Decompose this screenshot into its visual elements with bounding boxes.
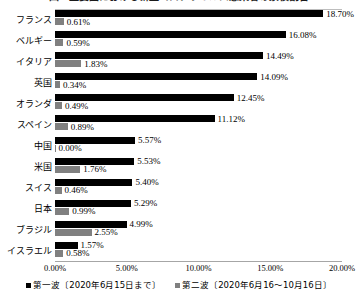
bar-value-label: 18.70% (326, 9, 354, 19)
category-row: イスラエル1.57%0.58% (55, 241, 342, 262)
bar-value-label: 0.46% (65, 185, 88, 195)
bar-value-label: 0.99% (72, 206, 95, 216)
bar-value-label: 0.59% (66, 38, 89, 48)
bar-series-1: 18.70% (55, 10, 323, 17)
bar-series-2: 1.83% (55, 60, 81, 67)
legend-item-2[interactable]: 第二波〔2020年6月16～10月16日〕 (175, 280, 332, 291)
bar-value-label: 0.34% (63, 80, 86, 90)
bar-value-label: 12.45% (237, 93, 265, 103)
chart-title: 図1 主要国における新型コロナウイルス感染者の累積割合 (0, 0, 358, 2)
category-row: 米国5.53%1.76% (55, 157, 342, 178)
bar-value-label: 0.61% (67, 17, 90, 27)
bar-value-label: 5.29% (134, 198, 157, 208)
category-row: フランス18.70%0.61% (55, 9, 342, 30)
bar-value-label: 11.12% (218, 114, 245, 124)
category-label: イスラエル (7, 246, 52, 256)
category-label: スイス (25, 183, 52, 193)
x-tick-label: 0.00% (44, 263, 66, 274)
x-axis-ticks: 0.00%5.00%10.00%15.00%20.00% (55, 263, 342, 275)
category-row: イタリア14.49%1.83% (55, 51, 342, 72)
category-label: 中国 (34, 141, 52, 151)
chart-legend: 第一波〔2020年6月15日まで〕第二波〔2020年6月16～10月16日〕 (0, 278, 358, 292)
category-label: 英国 (34, 78, 52, 88)
legend-swatch-icon (175, 283, 180, 288)
bar-value-label: 1.76% (83, 164, 106, 174)
bar-series-2: 0.46% (55, 187, 62, 194)
category-label: ブラジル (16, 225, 52, 235)
category-row: スイス5.40%0.46% (55, 178, 342, 199)
category-row: オランダ12.45%0.49% (55, 93, 342, 114)
category-label: 日本 (34, 204, 52, 214)
category-row: スペイン11.12%0.89% (55, 114, 342, 135)
bar-series-2: 2.55% (55, 229, 92, 236)
bar-value-label: 0.58% (66, 248, 89, 258)
legend-label: 第二波〔2020年6月16～10月16日〕 (182, 280, 332, 291)
bar-value-label: 0.00% (59, 143, 82, 153)
bar-value-label: 14.49% (266, 51, 294, 61)
bar-value-label: 5.53% (137, 156, 160, 166)
bar-value-label: 0.49% (65, 101, 88, 111)
bar-series-2: 0.49% (55, 102, 62, 109)
legend-item-1[interactable]: 第一波〔2020年6月15日まで〕 (26, 280, 161, 291)
legend-label: 第一波〔2020年6月15日まで〕 (33, 280, 161, 291)
bar-value-label: 2.55% (95, 227, 118, 237)
x-tick-label: 15.00% (257, 263, 283, 274)
bar-series-2: 0.89% (55, 123, 68, 130)
category-label: イタリア (16, 57, 52, 67)
category-label: 米国 (34, 162, 52, 172)
category-label: フランス (16, 15, 52, 25)
bar-series-2: 1.76% (55, 166, 80, 173)
category-row: 日本5.29%0.99% (55, 199, 342, 220)
bar-series-2: 0.00% (55, 145, 56, 152)
category-label: オランダ (16, 99, 52, 109)
bar-series-2: 0.34% (55, 81, 60, 88)
bar-series-2: 0.99% (55, 208, 69, 215)
bar-chart: 図1 主要国における新型コロナウイルス感染者の累積割合 フランス18.70%0.… (0, 0, 358, 295)
category-row: ブラジル4.99%2.55% (55, 220, 342, 241)
category-row: 英国14.09%0.34% (55, 72, 342, 93)
category-row: 中国5.57%0.00% (55, 136, 342, 157)
plot-area: フランス18.70%0.61%ベルギー16.08%0.59%イタリア14.49%… (55, 9, 342, 262)
bar-value-label: 14.09% (260, 72, 288, 82)
bar-value-label: 1.83% (84, 59, 107, 69)
bar-value-label: 5.57% (138, 135, 161, 145)
category-row: ベルギー16.08%0.59% (55, 30, 342, 51)
bar-value-label: 5.40% (135, 177, 158, 187)
category-label: ベルギー (16, 36, 52, 46)
bar-value-label: 0.89% (71, 122, 94, 132)
category-label: スペイン (17, 120, 52, 130)
bar-value-label: 4.99% (130, 219, 153, 229)
legend-swatch-icon (26, 283, 31, 288)
bar-value-label: 16.08% (289, 30, 317, 40)
x-tick-label: 5.00% (116, 263, 138, 274)
bar-series-2: 0.59% (55, 39, 63, 46)
bar-series-2: 0.61% (55, 18, 64, 25)
bar-series-2: 0.58% (55, 250, 63, 257)
x-tick-label: 20.00% (329, 263, 355, 274)
x-tick-label: 10.00% (185, 263, 211, 274)
